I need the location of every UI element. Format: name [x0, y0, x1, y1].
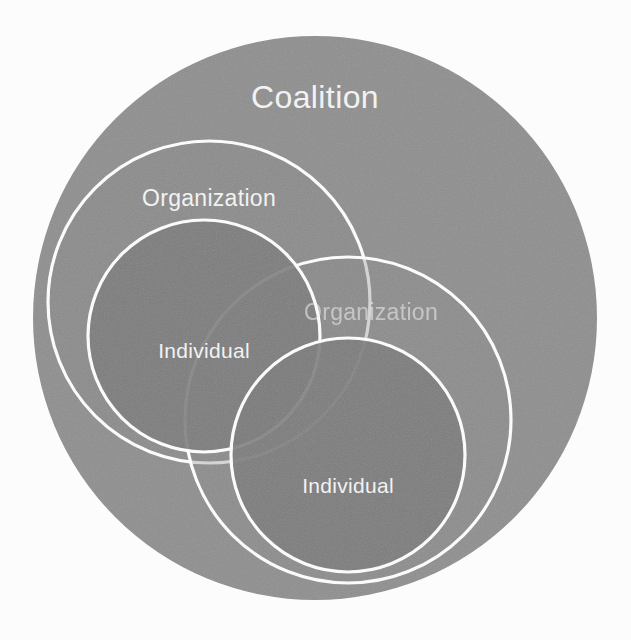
- label-coalition: Coalition: [251, 79, 379, 115]
- circle-individual-right[interactable]: [231, 338, 465, 572]
- label-organization-left: Organization: [142, 185, 276, 211]
- label-individual-right: Individual: [302, 474, 394, 497]
- diagram-canvas: Coalition Organization Organization Indi…: [0, 0, 631, 640]
- label-individual-left: Individual: [158, 339, 250, 362]
- label-organization-right: Organization: [304, 299, 438, 325]
- nested-circles-diagram: Coalition Organization Organization Indi…: [0, 0, 631, 640]
